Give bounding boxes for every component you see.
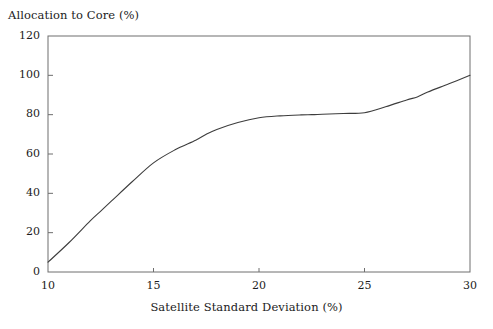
- y-tick-label: 60: [4, 147, 40, 160]
- y-tick-label: 120: [4, 29, 40, 42]
- x-tick-label: 30: [450, 279, 490, 292]
- y-tick-label: 80: [4, 107, 40, 120]
- plot-frame: [48, 36, 470, 272]
- x-tick-label: 10: [28, 279, 68, 292]
- x-tick-label: 15: [134, 279, 174, 292]
- chart-figure: Allocation to Core (%) 020406080100120 1…: [0, 0, 493, 329]
- y-tick-label: 100: [4, 68, 40, 81]
- x-tick-label: 20: [239, 279, 279, 292]
- y-tick-label: 20: [4, 225, 40, 238]
- y-tick-label: 40: [4, 186, 40, 199]
- x-axis-title: Satellite Standard Deviation (%): [0, 300, 493, 314]
- y-tick-label: 0: [4, 265, 40, 278]
- x-tick-label: 25: [345, 279, 385, 292]
